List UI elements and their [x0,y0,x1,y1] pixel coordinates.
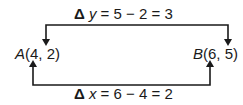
point-b-coords: (6, 5) [203,45,238,62]
point-a-coords: (4, 2) [25,45,60,62]
point-b-letter: B [193,45,203,62]
delta-symbol: Δ [74,85,85,102]
delta-y-connector [46,25,228,42]
point-a-label: A(4, 2) [15,46,60,62]
delta-x-equation: Δ x = 6 − 4 = 2 [74,86,173,102]
point-b-label: B(6, 5) [193,46,238,62]
delta-symbol: Δ [74,5,85,22]
delta-expr: = 5 − 2 = 3 [96,5,172,22]
delta-expr: = 6 − 4 = 2 [96,85,172,102]
delta-x-connector [33,64,210,85]
delta-y-equation: Δ y = 5 − 2 = 3 [74,6,173,22]
point-a-letter: A [15,45,25,62]
